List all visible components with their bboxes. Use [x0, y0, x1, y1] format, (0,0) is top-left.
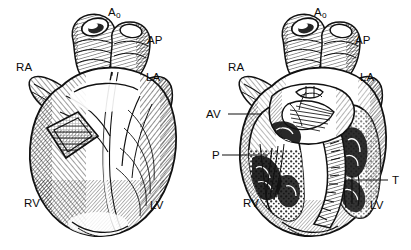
heart-anatomy-figure: Ao AP RA LA RV LV Ao AP RA LA AV P T — [0, 0, 411, 250]
label-ap-exterior: AP — [147, 34, 163, 46]
label-rv-exterior: RV — [24, 197, 40, 209]
label-ra-sectioned: RA — [228, 61, 245, 73]
label-p-pulmonary-valve: P — [212, 149, 220, 161]
label-ap-sectioned: AP — [355, 34, 371, 46]
label-t-tricuspid-valve: T — [392, 174, 399, 186]
label-lv-sectioned: LV — [370, 199, 384, 211]
label-ra-exterior: RA — [16, 61, 33, 73]
label-la-sectioned: LA — [360, 71, 375, 83]
label-rv-sectioned: RV — [243, 197, 259, 209]
figure-canvas: Ao AP RA LA RV LV Ao AP RA LA AV P T — [0, 0, 411, 250]
label-av-aortic-valve: AV — [206, 108, 221, 120]
label-lv-exterior: LV — [150, 199, 164, 211]
label-la-exterior: LA — [146, 71, 161, 83]
